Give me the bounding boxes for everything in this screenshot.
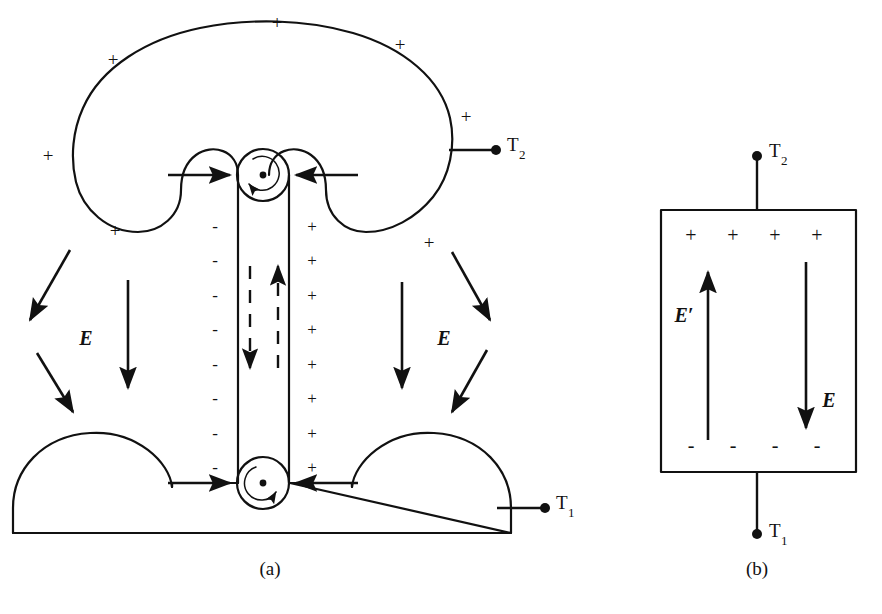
terminal-t2-subscript: 2 — [519, 147, 526, 162]
panel-b-top-charge-1: + — [727, 224, 738, 246]
belt-left-charge-4: - — [212, 355, 218, 374]
terminal-t1-subscript: 1 — [568, 505, 575, 520]
belt-right-charge-4: + — [307, 355, 317, 374]
top-pulley-axle-dot — [260, 172, 267, 179]
belt-left-charge-2: - — [212, 286, 218, 305]
caption-panel-a: (a) — [259, 558, 280, 580]
belt-left-charge-1: - — [212, 251, 218, 270]
panel-b: T 2 T 1 ++++ ---- E′ E (b) — [661, 140, 856, 580]
panel-b-top-charge-2: + — [769, 224, 780, 246]
terminal-t2-label: T — [507, 134, 519, 155]
belt-right-charge-2: + — [307, 286, 317, 305]
panel-b-terminal-t2-label: T — [769, 140, 781, 161]
belt-left-charge-column: -------- — [212, 217, 218, 478]
panel-b-top-charge-row: ++++ — [685, 224, 822, 246]
belt-right-charge-column: ++++++++ — [307, 217, 317, 478]
terminal-t2-dot — [491, 145, 501, 155]
belt-right-charge-7: + — [307, 458, 317, 477]
belt-left-charge-5: - — [212, 389, 218, 408]
field-arrow-right-upper-diagonal — [452, 252, 490, 320]
terminal-t1-label: T — [556, 492, 568, 513]
belt-right-charge-6: + — [307, 424, 317, 443]
e-prime-field-label: E′ — [674, 304, 694, 326]
belt-right-charge-0: + — [307, 217, 317, 236]
dome-charge-6: + — [424, 232, 435, 253]
e-field-label-left: E — [78, 327, 92, 349]
panel-b-bottom-charge-1: - — [730, 434, 737, 456]
belt-left-charge-6: - — [212, 424, 218, 443]
belt-right-charge-5: + — [307, 389, 317, 408]
dome-charge-4: + — [461, 106, 472, 127]
panel-b-terminal-t1-subscript: 1 — [781, 533, 788, 548]
bottom-pulley — [237, 457, 289, 509]
panel-b-top-charge-0: + — [685, 224, 696, 246]
panel-b-top-charge-3: + — [811, 224, 822, 246]
panel-b-bottom-charge-2: - — [772, 434, 779, 456]
panel-b-terminal-t2-dot — [752, 151, 762, 161]
caption-panel-b: (b) — [746, 558, 768, 580]
physics-diagram-svg: E E + + + + + + + -------- ++++++++ T 2 … — [0, 0, 882, 614]
panel-b-bottom-charge-3: - — [814, 434, 821, 456]
top-pulley — [237, 149, 289, 201]
field-arrow-left-lower-diagonal — [37, 353, 73, 412]
belt-right-charge-1: + — [307, 251, 317, 270]
e-field-label-right: E — [436, 327, 450, 349]
bottom-pulley-axle-dot — [260, 480, 267, 487]
dome-charge-2: + — [395, 34, 406, 55]
dome-charge-5: + — [110, 220, 121, 241]
panel-a: E E + + + + + + + -------- ++++++++ T 2 … — [13, 12, 575, 580]
field-arrow-right-lower-diagonal — [452, 350, 487, 412]
panel-b-terminal-t1-label: T — [769, 520, 781, 541]
panel-b-terminal-t2-subscript: 2 — [781, 153, 788, 168]
dome-charge-0: + — [272, 12, 283, 33]
belt-left-charge-0: - — [212, 217, 218, 236]
figure-root: E E + + + + + + + -------- ++++++++ T 2 … — [0, 0, 882, 614]
dome-charge-3: + — [43, 145, 54, 166]
panel-b-terminal-t1-dot — [752, 529, 762, 539]
belt-left-charge-7: - — [212, 458, 218, 477]
panel-b-bottom-charge-0: - — [688, 434, 695, 456]
terminal-t1-dot — [540, 503, 550, 513]
dome-charge-1: + — [108, 49, 119, 70]
e-field-label-panel-b: E — [821, 389, 835, 411]
field-arrow-left-upper-diagonal — [30, 250, 70, 320]
belt-left-charge-3: - — [212, 320, 218, 339]
belt-right-charge-3: + — [307, 320, 317, 339]
